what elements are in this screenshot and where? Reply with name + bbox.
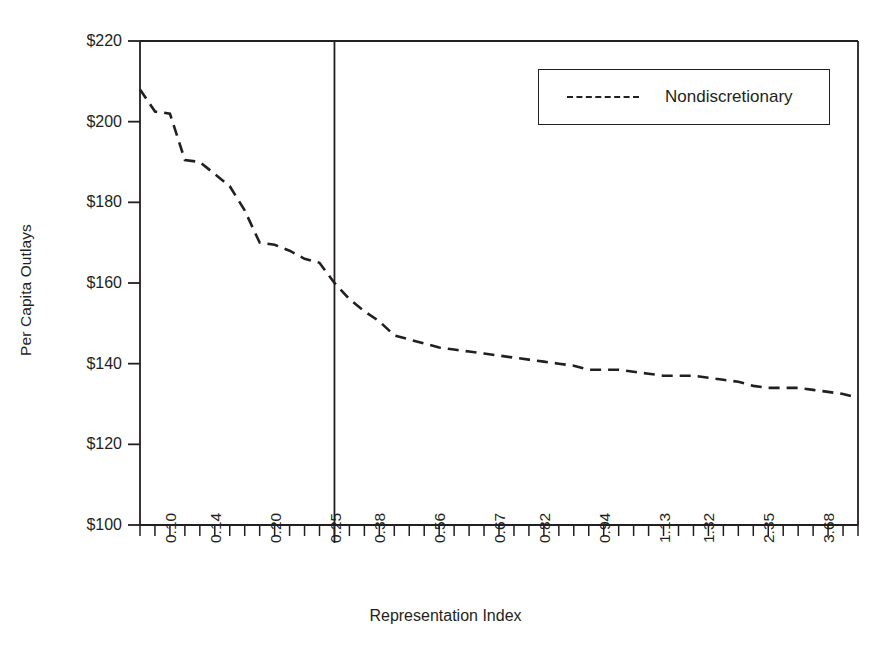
x-axis-title: Representation Index bbox=[0, 607, 891, 625]
x-tick-label: 0.20 bbox=[267, 525, 285, 543]
legend-entry-label: Nondiscretionary bbox=[665, 87, 793, 107]
y-tick-label: $120 bbox=[50, 436, 122, 452]
chart-figure: Per Capita Outlays $220$200$180$160$140$… bbox=[0, 0, 891, 648]
y-tick-label: $140 bbox=[50, 356, 122, 372]
legend-dash-swatch-icon bbox=[567, 96, 639, 98]
x-tick-label: 0.10 bbox=[162, 525, 180, 543]
x-tick-label: 1.32 bbox=[700, 525, 718, 543]
y-axis-ticks bbox=[128, 41, 140, 525]
legend: Nondiscretionary bbox=[538, 69, 830, 125]
series-line-nondiscretionary bbox=[140, 89, 858, 398]
x-tick-label: 0.67 bbox=[491, 525, 509, 543]
x-tick-label: 0.38 bbox=[371, 525, 389, 543]
x-tick-label: 0.82 bbox=[536, 525, 554, 543]
y-axis-title-text: Per Capita Outlays bbox=[17, 224, 35, 356]
y-tick-label: $160 bbox=[50, 275, 122, 291]
x-tick-label: 1.13 bbox=[656, 525, 674, 543]
y-tick-label: $220 bbox=[50, 33, 122, 49]
x-tick-label: 2.35 bbox=[760, 525, 778, 543]
y-tick-label: $100 bbox=[50, 517, 122, 533]
legend-entry: Nondiscretionary bbox=[539, 70, 829, 124]
y-tick-label: $200 bbox=[50, 114, 122, 130]
x-tick-label: 0.25 bbox=[327, 525, 345, 543]
y-axis-title: Per Capita Outlays bbox=[14, 175, 38, 405]
x-tick-label: 3.68 bbox=[820, 525, 838, 543]
data-series bbox=[140, 89, 858, 398]
y-tick-label: $180 bbox=[50, 194, 122, 210]
x-tick-label: 0.56 bbox=[431, 525, 449, 543]
x-tick-label: 0.14 bbox=[207, 525, 225, 543]
x-tick-label: 0.94 bbox=[596, 525, 614, 543]
